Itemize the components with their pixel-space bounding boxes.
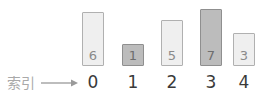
bar-value-2: 5 <box>168 49 176 65</box>
bar-2: 5 <box>161 20 183 66</box>
index-label-3: 3 <box>200 74 222 91</box>
index-label-2: 2 <box>161 74 183 91</box>
index-caption-label: 索引 <box>7 76 35 90</box>
bar-value-0: 6 <box>89 49 97 65</box>
bar-value-4: 3 <box>240 49 248 65</box>
index-label-0: 0 <box>82 74 104 91</box>
bar-value-1: 1 <box>129 49 137 65</box>
index-label-4: 4 <box>233 74 255 91</box>
bar-0: 6 <box>82 12 104 66</box>
arrow-right-icon <box>41 78 79 88</box>
array-index-diagram: 索引 61573 01234 <box>0 0 261 108</box>
bar-value-3: 7 <box>207 49 215 65</box>
index-label-1: 1 <box>122 74 144 91</box>
bar-1: 1 <box>122 44 144 66</box>
bar-3: 7 <box>200 9 222 66</box>
bar-4: 3 <box>233 33 255 66</box>
